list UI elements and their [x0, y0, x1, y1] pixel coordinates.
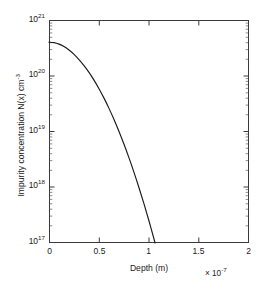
- x-tick-label-2: 2: [233, 247, 264, 256]
- x-tick-label-0: 0: [34, 247, 65, 256]
- x-tick-label-1: 1: [133, 247, 164, 256]
- y-tick-label-1e17: 1017: [3, 237, 45, 246]
- y-tick-label-1e21: 1021: [3, 15, 45, 24]
- x-tick-label-1-5: 1.5: [183, 247, 214, 256]
- x-major-ticks: [50, 21, 249, 243]
- y-axis-label: Impurity concentration N(x) cm-3: [17, 35, 26, 235]
- y-minor-ticks: [50, 23, 249, 226]
- impurity-concentration-chart: 1021 1020 1019 1018 1017 0 0.5 1 1.5 2 I…: [0, 0, 267, 291]
- concentration-curve: [49, 42, 155, 243]
- y-major-ticks: [50, 21, 249, 243]
- x-tick-label-0-5: 0.5: [84, 247, 115, 256]
- plot-frame: [50, 21, 249, 243]
- x-axis-exponent-multiplier: × 10-7: [205, 270, 227, 278]
